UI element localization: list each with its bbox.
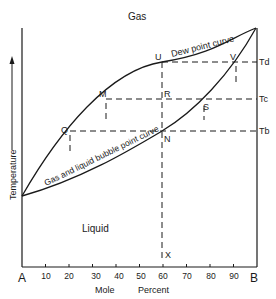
point-v: V [230,52,236,62]
point-r: R [164,89,171,99]
x-tick-labels: 10 20 30 40 50 60 70 80 90 [41,271,239,281]
svg-text:40: 40 [114,271,124,281]
svg-text:50: 50 [136,271,146,281]
svg-text:60: 60 [158,271,168,281]
arrow-head-icon [10,56,15,64]
svg-text:30: 30 [91,271,101,281]
x-label-percent: Percent [138,285,170,295]
point-s: S [203,102,209,112]
point-n: N [164,134,171,144]
svg-text:10: 10 [41,271,51,281]
tb-label: Tb [259,126,270,136]
point-x: X [165,250,171,260]
x-label-mole: Mole [95,285,115,295]
point-u: U [155,52,162,62]
svg-text:90: 90 [229,271,239,281]
tc-label: Tc [259,94,269,104]
point-q: Q [61,125,68,135]
td-label: Td [259,57,270,67]
phase-diagram: Gas Liquid Dew point curve Gas and liqui… [0,0,276,299]
svg-text:70: 70 [182,271,192,281]
y-axis-label: Temperature [8,149,18,200]
dew-point-label: Dew point curve [170,34,235,59]
svg-text:20: 20 [64,271,74,281]
liquid-region-label: Liquid [82,223,109,234]
svg-text:80: 80 [206,271,216,281]
point-m: M [99,89,107,99]
endpoint-b: B [250,271,258,285]
endpoint-a: A [18,271,26,285]
gas-region-label: Gas [128,11,146,22]
